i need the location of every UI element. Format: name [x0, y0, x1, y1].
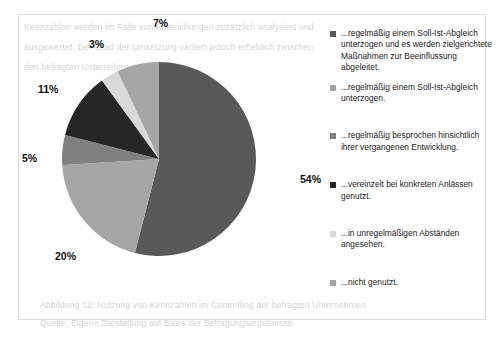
chart-legend: ...regelmäßig einem Soll-Ist-Abgleich un…	[330, 28, 492, 288]
slice-percentage-label: 11%	[38, 83, 58, 95]
legend-item-label: ...regelmäßig einem Soll-Ist-Abgleich un…	[341, 28, 492, 74]
slice-percentage-label: 54%	[300, 173, 321, 185]
legend-item[interactable]: ...regelmäßig einem Soll-Ist-Abgleich un…	[330, 28, 492, 74]
legend-item-label: ...regelmäßig besprochen hinsichtlich ih…	[341, 130, 492, 153]
legend-color-swatch-icon	[330, 31, 336, 37]
legend-color-swatch-icon	[330, 280, 336, 286]
legend-color-swatch-icon	[330, 85, 336, 91]
legend-item-label: ...regelmäßig einem Soll-Ist-Abgleich un…	[341, 82, 492, 105]
legend-color-swatch-icon	[330, 133, 336, 139]
legend-item-label: ...nicht genutzt.	[341, 277, 398, 288]
legend-item[interactable]: ...in unregelmäßigen Abständen angesehen…	[330, 228, 492, 251]
legend-item[interactable]: ...regelmäßig besprochen hinsichtlich ih…	[330, 130, 492, 153]
pie-chart: 7%3%11%5%20%54%	[0, 0, 330, 306]
legend-item-label: ...in unregelmäßigen Abständen angesehen…	[341, 228, 492, 251]
slice-percentage-label: 3%	[89, 38, 104, 50]
legend-item[interactable]: ...nicht genutzt.	[330, 277, 492, 288]
slice-percentage-label: 5%	[22, 152, 37, 164]
legend-item-label: ...vereinzelt bei konkreten Anlässen gen…	[341, 179, 492, 202]
legend-item[interactable]: ...regelmäßig einem Soll-Ist-Abgleich un…	[330, 82, 492, 105]
legend-color-swatch-icon	[330, 182, 336, 188]
slice-percentage-label: 7%	[153, 17, 168, 29]
legend-item[interactable]: ...vereinzelt bei konkreten Anlässen gen…	[330, 179, 492, 202]
legend-color-swatch-icon	[330, 231, 336, 237]
pie-slices	[61, 61, 257, 257]
slice-percentage-label: 20%	[55, 250, 76, 262]
